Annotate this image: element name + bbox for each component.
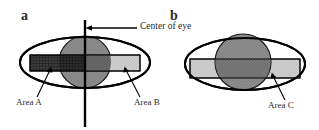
area-c-label: Area C xyxy=(268,101,294,110)
eye-schematic-figure xyxy=(0,0,319,130)
area-b-label: Area B xyxy=(134,98,160,107)
area-a-label: Area A xyxy=(16,98,42,107)
panel-a xyxy=(20,20,150,127)
panel-a-letter: a xyxy=(21,9,28,23)
center-of-eye-arrowhead xyxy=(86,25,93,31)
center-of-eye-label: Center of eye xyxy=(140,22,191,32)
panel-b xyxy=(185,34,305,100)
